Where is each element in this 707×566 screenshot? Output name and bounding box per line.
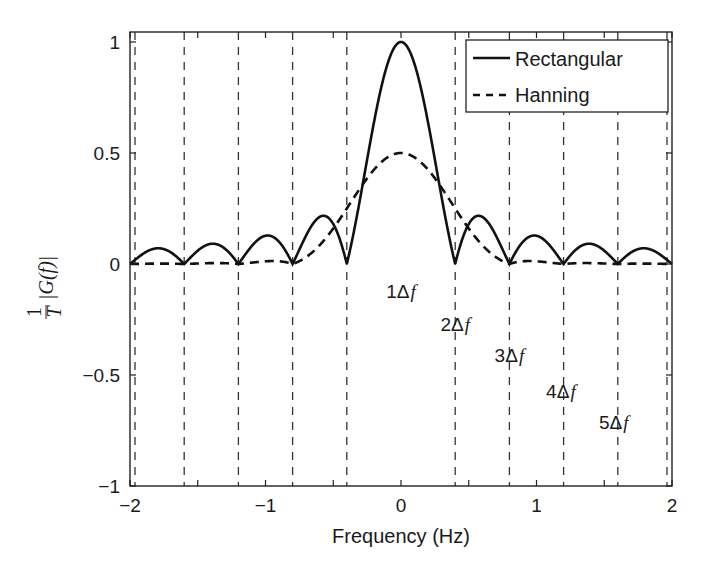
x-tick-label: 1 [531,495,542,516]
hanning-curve [130,153,672,264]
x-tick-label: 0 [396,495,407,516]
y-tick-label: 1 [109,32,120,53]
x-tick-label: −2 [119,495,141,516]
delta-f-annotation: 5Δf [599,412,631,433]
delta-f-annotation: 1Δf [386,281,418,302]
delta-f-annotation: 2Δf [440,314,472,335]
delta-f-annotation: 4Δf [546,381,578,402]
x-tick-label: −1 [255,495,277,516]
y-label-denominator: T [43,305,65,318]
x-axis-label: Frequency (Hz) [332,525,470,547]
y-tick-label: 0.5 [94,143,120,164]
legend-rectangular-label: Rectangular [515,48,623,70]
y-label-numerator: 1 [23,307,45,317]
y-axis-label: 1 T |G(f)| [23,256,65,319]
x-tick-label: 2 [667,495,678,516]
legend: Rectangular Hanning [466,40,668,112]
delta-f-annotations: 1Δf2Δf3Δf4Δf5Δf [386,281,631,433]
x-tick-labels: −2−1012 [119,495,677,516]
legend-hanning-label: Hanning [515,84,590,106]
y-tick-label: −1 [98,476,120,497]
y-label-body: |G(f)| [35,256,58,300]
chart-figure: −2−1012 −1−0.500.51 1Δf2Δf3Δf4Δf5Δf Rect… [0,0,707,566]
y-tick-label: −0.5 [82,365,120,386]
delta-f-annotation: 3Δf [495,345,527,366]
y-tick-label: 0 [109,254,120,275]
y-tick-labels: −1−0.500.51 [82,32,120,497]
